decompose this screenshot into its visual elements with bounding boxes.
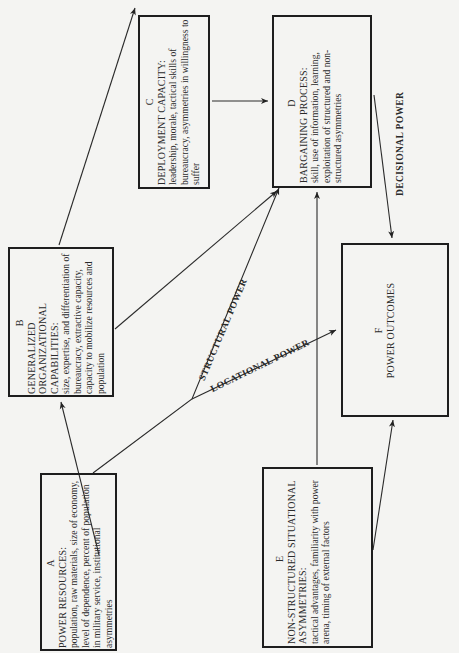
node-e-letter: E — [274, 474, 286, 644]
label-decisional-power: DECISIONAL POWER — [395, 92, 405, 196]
edge-d-to-f-decisional — [374, 95, 392, 238]
edge-b-to-d — [115, 191, 277, 329]
node-a-title: POWER RESOURCES: — [57, 478, 69, 648]
node-b-description: size, expertise, and differentiation of … — [60, 252, 106, 394]
node-a-letter: A — [45, 478, 57, 648]
node-e-title: NON-STRUCTURED SITUATIONAL ASYMMETRIES: — [286, 474, 309, 644]
node-d-title: BARGAINING PROCESS: — [298, 23, 310, 183]
node-a-power-resources: A POWER RESOURCES: population, raw mater… — [40, 473, 117, 651]
node-e-situational-asymmetries: E NON-STRUCTURED SITUATIONAL ASYMMETRIES… — [262, 467, 373, 648]
node-b-letter: B — [14, 252, 26, 394]
node-d-content: D BARGAINING PROCESS: skill, use of info… — [286, 23, 366, 183]
node-b-title: GENERALIZED ORGANIZATIONAL CAPABILITIES: — [26, 252, 61, 394]
node-f-title: POWER OUTCOMES — [385, 248, 397, 413]
node-a-content: A POWER RESOURCES: population, raw mater… — [45, 478, 115, 648]
node-f-content: F POWER OUTCOMES — [373, 248, 413, 413]
node-c-description: leadership, morale, tactical skills of b… — [167, 19, 202, 185]
node-e-content: E NON-STRUCTURED SITUATIONAL ASYMMETRIES… — [274, 474, 364, 644]
node-d-letter: D — [286, 23, 298, 183]
node-d-description: skill, use of information, learning, exp… — [309, 23, 344, 183]
node-e-description: tactical advantages, familiarity with po… — [309, 474, 332, 644]
node-f-letter: F — [373, 248, 385, 413]
edge-e-to-f — [373, 420, 393, 550]
node-c-title: DEPLOYMENT CAPACITY: — [156, 19, 168, 185]
node-c-letter: C — [144, 19, 156, 185]
node-f-power-outcomes: F POWER OUTCOMES — [341, 243, 449, 417]
node-b-content: B GENERALIZED ORGANIZATIONAL CAPABILITIE… — [14, 252, 112, 394]
edge-a-to-d-structural — [93, 188, 279, 473]
node-a-description: population, raw materials, size of econo… — [68, 478, 114, 648]
node-c-content: C DEPLOYMENT CAPACITY: leadership, moral… — [144, 19, 208, 185]
node-c-deployment-capacity: C DEPLOYMENT CAPACITY: leadership, moral… — [138, 15, 210, 189]
edge-b-to-c — [59, 8, 135, 245]
node-b-organizational-capabilities: B GENERALIZED ORGANIZATIONAL CAPABILITIE… — [8, 247, 114, 397]
node-d-bargaining-process: D BARGAINING PROCESS: skill, use of info… — [272, 15, 372, 188]
